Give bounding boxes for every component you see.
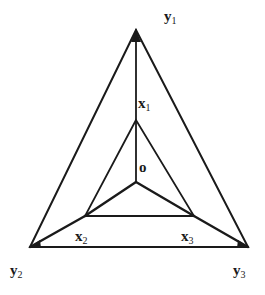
label-x1: x1 — [138, 96, 151, 113]
label-y3: y3 — [233, 263, 246, 280]
label-x2: x2 — [75, 229, 88, 246]
diagram-lines — [0, 0, 265, 295]
label-o: o — [139, 160, 147, 175]
label-x3: x3 — [181, 229, 194, 246]
edge-o-x3 — [136, 182, 194, 216]
label-y2: y2 — [10, 263, 23, 280]
triangle-diagram: y1 x1 o x2 x3 y2 y3 — [0, 0, 265, 295]
outer-triangle — [30, 30, 248, 247]
edge-o-x2 — [85, 182, 136, 216]
label-y1: y1 — [164, 9, 177, 26]
